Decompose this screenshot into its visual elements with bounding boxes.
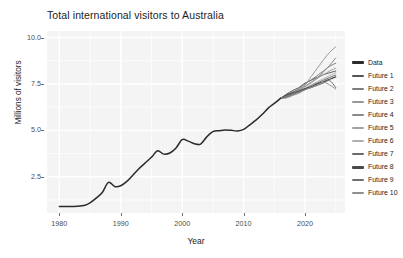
x-tick-label: 2000 [174,219,190,228]
legend-item-future-8[interactable]: Future 8 [352,161,403,174]
legend-item-future-3[interactable]: Future 3 [352,95,403,108]
y-tick-label: 2.5 [31,172,41,181]
x-tick-label: 1980 [51,219,67,228]
legend-item-label: Future 5 [368,124,394,132]
legend-item-future-10[interactable]: Future 10 [352,187,403,200]
legend-item-label: Future 8 [368,163,394,171]
x-tick-label: 2010 [236,219,252,228]
y-tick-mark [41,177,44,178]
y-tick-label: 7.5 [31,79,41,88]
x-tick-mark [244,213,245,216]
legend-item-future-5[interactable]: Future 5 [352,121,403,134]
series-line-future-9 [280,80,335,98]
legend-swatch-line-icon [352,166,364,169]
y-tick-mark [41,130,44,131]
plot-area [47,31,345,213]
legend-item-label: Future 3 [368,98,394,106]
x-tick-mark [305,213,306,216]
legend-item-future-2[interactable]: Future 2 [352,82,403,95]
legend-item-label: Future 4 [368,111,394,119]
legend-item-future-1[interactable]: Future 1 [352,69,403,82]
chart-title: Total international visitors to Australi… [47,9,224,22]
legend-item-data[interactable]: Data [352,56,403,69]
x-axis-title: Year [47,236,345,246]
x-tick-mark [59,213,60,216]
y-tick-mark [41,38,44,39]
legend-swatch-line-icon [352,101,364,103]
legend-swatch-line-icon [352,61,364,64]
legend-item-label: Future 7 [368,150,394,158]
legend-item-label: Future 6 [368,137,394,145]
legend-item-future-7[interactable]: Future 7 [352,148,403,161]
x-tick-label: 1990 [113,219,129,228]
chart-legend: DataFuture 1Future 2Future 3Future 4Futu… [352,56,403,200]
legend-swatch-line-icon [352,153,364,155]
legend-swatch-line-icon [352,179,364,181]
series-line-data [59,98,280,206]
legend-item-label: Future 1 [368,72,394,80]
plot-panel [47,31,345,213]
x-axis-ticks: 19801990200020102020 [47,213,345,233]
x-tick-mark [121,213,122,216]
y-axis-ticks: 2.55.07.510.0 [0,31,41,213]
legend-item-future-6[interactable]: Future 6 [352,135,403,148]
legend-item-label: Future 2 [368,85,394,93]
legend-item-label: Data [368,59,383,67]
y-tick-mark [41,84,44,85]
x-tick-label: 2020 [297,219,313,228]
chart-container: Total international visitors to Australi… [0,0,403,258]
legend-item-label: Future 9 [368,176,394,184]
legend-item-future-9[interactable]: Future 9 [352,174,403,187]
y-tick-label: 10.0 [27,33,41,42]
legend-item-future-4[interactable]: Future 4 [352,108,403,121]
legend-swatch-line-icon [352,88,364,90]
x-tick-mark [182,213,183,216]
legend-swatch-line-icon [352,127,364,129]
legend-swatch-line-icon [352,114,364,116]
legend-item-label: Future 10 [368,189,398,197]
legend-swatch-line-icon [352,192,364,194]
y-tick-label: 5.0 [31,125,41,134]
legend-swatch-line-icon [352,140,364,142]
legend-swatch-line-icon [352,75,364,77]
